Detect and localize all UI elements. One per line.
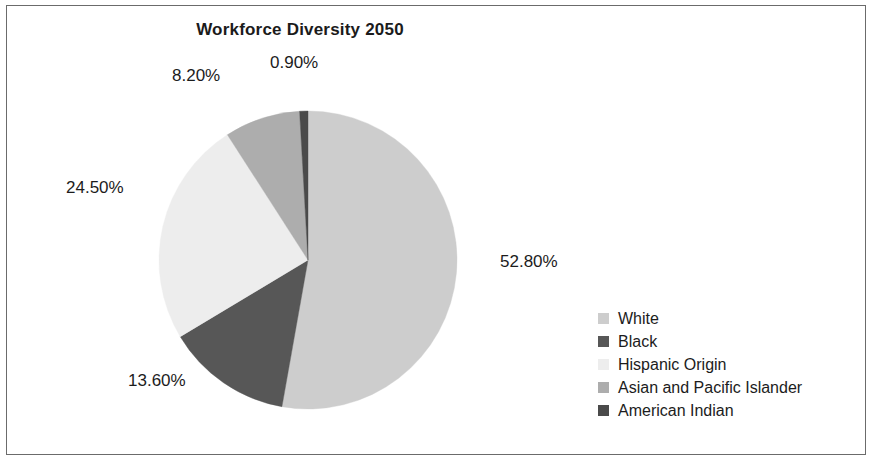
pie-data-label-american-indian: 0.90% [270,53,318,73]
legend-item-black: Black [598,330,860,353]
legend-label-asian-and-pacific-islander: Asian and Pacific Islander [618,380,802,396]
pie-data-label-black: 13.60% [128,371,186,391]
legend-swatch-icon-american-indian [598,405,609,416]
legend-label-american-indian: American Indian [618,403,734,419]
pie-data-label-white: 52.80% [500,252,558,272]
pie-data-label-asian-and-pacific-islander: 8.20% [172,66,220,86]
pie-svg [158,110,458,410]
pie-slice-group [159,111,457,409]
legend-label-black: Black [618,334,657,350]
chart-figure: Workforce Diversity 2050 52.80% 13.60% 2… [0,0,874,462]
pie-data-label-hispanic-origin: 24.50% [66,178,124,198]
chart-title: Workforce Diversity 2050 [0,20,600,40]
legend-item-hispanic-origin: Hispanic Origin [598,353,860,376]
legend-label-hispanic-origin: Hispanic Origin [618,357,726,373]
legend-item-american-indian: American Indian [598,399,860,422]
chart-legend: White Black Hispanic Origin Asian and Pa… [598,307,860,422]
legend-item-white: White [598,307,860,330]
pie-chart [158,110,458,410]
legend-swatch-icon-asian-and-pacific-islander [598,382,609,393]
legend-swatch-icon-black [598,336,609,347]
legend-item-asian-and-pacific-islander: Asian and Pacific Islander [598,376,860,399]
legend-label-white: White [618,311,659,327]
legend-swatch-icon-hispanic-origin [598,359,609,370]
legend-swatch-icon-white [598,313,609,324]
